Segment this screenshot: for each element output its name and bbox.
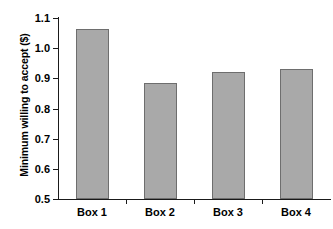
y-axis-line [58, 17, 59, 200]
bar [144, 83, 177, 199]
x-axis-tick-label: Box 3 [193, 206, 263, 219]
x-axis-tick-label: Box 2 [125, 206, 195, 219]
y-axis-tick-label: 0.5 [10, 194, 50, 205]
x-axis-tick-label: Box 1 [57, 206, 127, 219]
x-axis-tick [126, 200, 127, 204]
y-axis-tick-label: 1.0 [10, 43, 50, 54]
y-axis-tick [53, 78, 58, 79]
bar [280, 69, 313, 199]
bar [76, 29, 109, 199]
y-axis-tick-label: 0.8 [10, 104, 50, 115]
y-axis-tick-label: 0.9 [10, 73, 50, 84]
y-axis-tick-label: 0.6 [10, 164, 50, 175]
y-axis-tick [53, 169, 58, 170]
y-axis-tick [53, 18, 58, 19]
bar-chart: Minimum willing to accept ($) 1.11.00.90… [0, 0, 333, 229]
x-axis-tick [262, 200, 263, 204]
y-axis-tick [53, 48, 58, 49]
bar [212, 72, 245, 199]
y-axis-tick [53, 199, 58, 200]
x-axis-tick-label: Box 4 [261, 206, 331, 219]
y-axis-tick-label: 0.7 [10, 134, 50, 145]
x-axis-tick [194, 200, 195, 204]
y-axis-tick [53, 109, 58, 110]
y-axis-tick-label: 1.1 [10, 13, 50, 24]
y-axis-tick [53, 139, 58, 140]
